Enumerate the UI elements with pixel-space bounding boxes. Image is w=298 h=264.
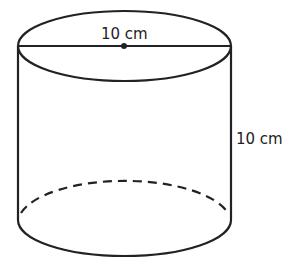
center-point — [121, 43, 127, 49]
diameter-label: 10 cm — [101, 25, 148, 43]
height-label: 10 cm — [236, 130, 283, 148]
cylinder-diagram: 10 cm 10 cm — [0, 0, 298, 264]
bottom-front-arc — [18, 220, 231, 256]
bottom-back-arc-dashed — [21, 181, 228, 213]
